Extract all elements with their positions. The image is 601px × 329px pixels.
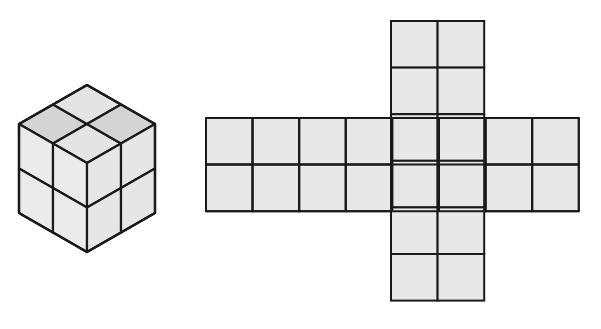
net-cell: [391, 207, 438, 254]
net-cell: [391, 161, 438, 208]
net-cell: [438, 21, 485, 68]
net-cell: [346, 165, 393, 212]
net-cell: [299, 165, 346, 212]
net-cell: [532, 118, 579, 165]
net-vertical-strip: [391, 21, 484, 301]
net-cell: [486, 165, 533, 212]
net-cell: [438, 114, 485, 161]
diagram-canvas: [0, 0, 601, 329]
net-cell: [253, 118, 300, 165]
net-cell: [438, 161, 485, 208]
isometric-cube: [19, 85, 155, 252]
cube-net: [206, 21, 579, 301]
net-cell: [486, 118, 533, 165]
net-cell: [532, 165, 579, 212]
net-cell: [438, 254, 485, 301]
net-cell: [391, 254, 438, 301]
net-cell: [391, 68, 438, 115]
net-cell: [206, 165, 253, 212]
net-cell: [253, 165, 300, 212]
net-cell: [391, 21, 438, 68]
net-cell: [299, 118, 346, 165]
net-cell: [438, 68, 485, 115]
net-cell: [206, 118, 253, 165]
net-cell: [346, 118, 393, 165]
net-cell: [391, 114, 438, 161]
net-cell: [438, 207, 485, 254]
